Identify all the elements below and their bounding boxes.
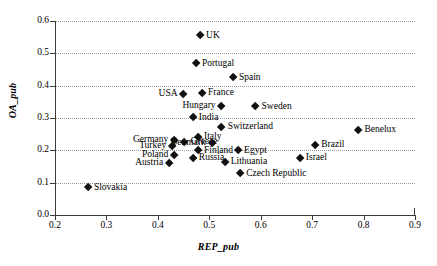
data-point-label: Hungary (182, 101, 215, 111)
y-tick (50, 53, 55, 54)
x-tick-label: 0.4 (138, 221, 178, 231)
y-axis-line (55, 21, 56, 215)
data-point-label: Portugal (202, 59, 234, 69)
data-point-label: Slovakia (94, 183, 127, 193)
data-point-label: Sweden (262, 102, 292, 112)
x-tick-label: 0.7 (292, 221, 332, 231)
data-point-label: USA (159, 89, 178, 99)
data-point-label: UK (206, 31, 220, 41)
x-axis-right-cap (414, 208, 415, 215)
data-point-label: India (199, 113, 219, 123)
gridline (55, 21, 415, 22)
data-point-label: France (208, 88, 234, 98)
x-tick-label: 0.2 (35, 221, 75, 231)
gridline (55, 86, 415, 87)
y-tick (50, 183, 55, 184)
data-point-label: Egypt (244, 146, 267, 156)
y-tick (50, 118, 55, 119)
y-tick-label: 0.1 (5, 178, 49, 188)
y-axis-title: OA_pub (7, 41, 18, 161)
x-axis-title: REP_pub (0, 241, 437, 252)
data-point-label: Spain (239, 73, 261, 83)
data-point-label: Lithuania (231, 157, 267, 167)
data-point-label: Austria (135, 158, 163, 168)
x-tick-label: 0.3 (86, 221, 126, 231)
y-tick (50, 21, 55, 22)
gridline (55, 118, 415, 119)
data-point-label: Brazil (321, 140, 344, 150)
y-tick-label: 0.0 (5, 210, 49, 220)
gridline (55, 53, 415, 54)
y-tick (50, 86, 55, 87)
data-point-label: Czech Republic (246, 169, 306, 179)
x-tick-label: 0.9 (395, 221, 435, 231)
x-tick-label: 0.8 (344, 221, 384, 231)
y-tick (50, 150, 55, 151)
x-tick-label: 0.6 (241, 221, 281, 231)
scatter-chart: 0.00.10.20.30.40.50.6 0.20.30.40.50.60.7… (0, 0, 437, 266)
data-point-label: Switzerland (228, 122, 273, 132)
y-tick-label: 0.6 (5, 16, 49, 26)
x-tick-label: 0.5 (189, 221, 229, 231)
x-axis-line (55, 215, 415, 216)
data-point-label: Israel (306, 153, 327, 163)
data-point-label: Benelux (364, 125, 396, 135)
